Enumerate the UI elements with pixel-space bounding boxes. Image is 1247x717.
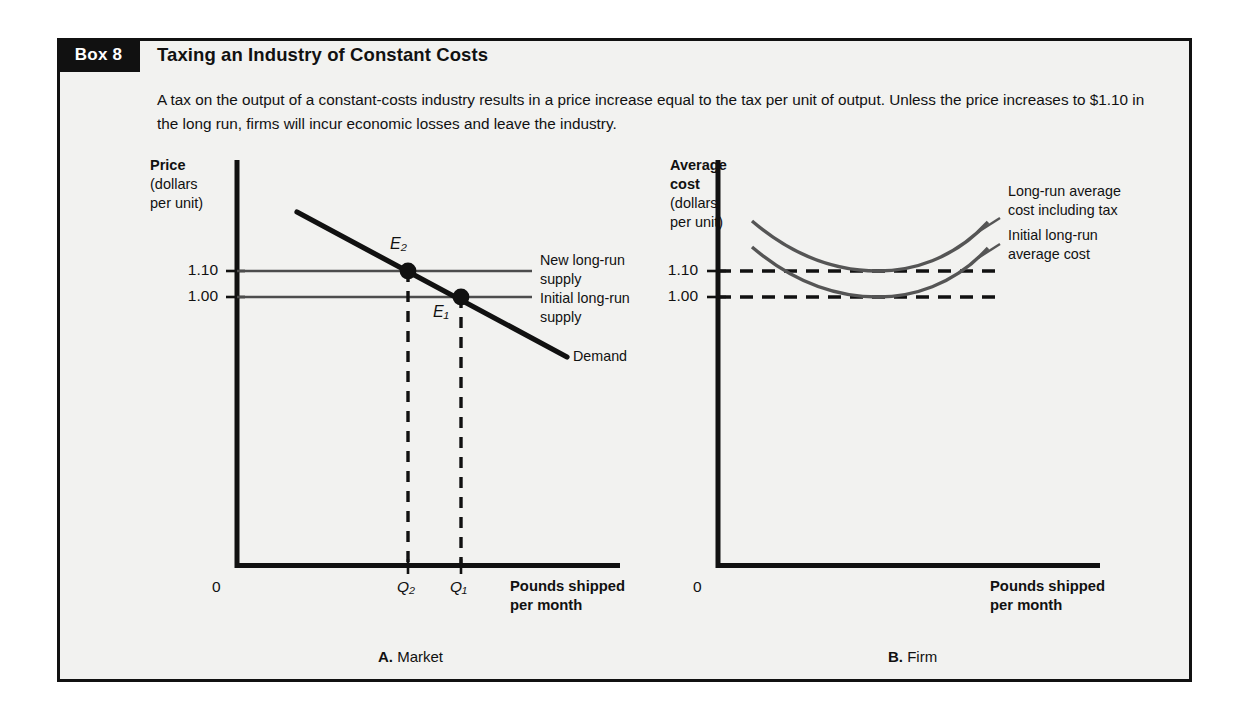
point-label-e2: E₂ [390,234,407,253]
y-axis-title-a-line1: Price [150,157,185,173]
box-title: Taxing an Industry of Constant Costs [157,44,488,66]
x-axis-title-a: Pounds shipped per month [510,577,625,615]
leader-curve-initial [978,244,1000,258]
y-axis-title-b-line4: per unit) [670,214,723,230]
point-label-e1: E₁ [433,302,449,321]
y-tick-label-110-a: 1.10 [154,261,218,279]
panel-caption-a: A. Market [378,648,443,665]
equilibrium-point-e1 [453,289,470,306]
figure-page: Box 8 Taxing an Industry of Constant Cos… [0,0,1247,717]
y-axis-title-b-line2: cost [670,176,700,192]
y-tick-label-110-b: 1.10 [634,261,698,279]
annotation-demand: Demand [573,347,627,366]
annotation-initial-long-run-average-cost: Initial long-run average cost [1008,226,1098,264]
curve-long-run-average-cost-including-tax [752,221,988,271]
origin-label-a: 0 [212,578,221,596]
panel-caption-b-text: Firm [903,648,937,665]
equilibrium-point-e2 [400,263,417,280]
y-tick-label-100-a: 1.00 [154,287,218,305]
panel-caption-b-prefix: B. [888,648,903,665]
chart-b-canvas [670,150,1190,650]
panel-caption-a-text: Market [393,648,443,665]
chart-panel-b-firm: Averagecost(dollarsper unit) 1.10 1.00 L… [670,150,1190,650]
y-tick-label-100-b: 1.00 [634,287,698,305]
panel-caption-b: B. Firm [888,648,937,665]
annotation-new-long-run-supply: New long-run supply [540,251,625,289]
y-axis-title-b-line3: (dollars [670,195,718,211]
chart-a-canvas [150,150,670,650]
demand-label-leader [543,344,567,357]
y-axis-title-a-line3: per unit) [150,195,203,211]
x-axis-title-b: Pounds shipped per month [990,577,1105,615]
y-axis-title-a-line2: (dollars [150,176,198,192]
annotation-long-run-average-cost-including-tax: Long-run average cost including tax [1008,182,1121,220]
leader-curve-with-tax [978,218,1000,232]
demand-curve [297,212,567,357]
chart-panel-a-market: Price(dollarsper unit) 1.10 1.00 E₂ E₁ N… [150,150,670,650]
panel-caption-a-prefix: A. [378,648,393,665]
box-intro-text: A tax on the output of a constant-costs … [157,88,1157,136]
x-tick-label-q2: Q₂ [397,578,415,596]
y-axis-title-b-line1: Average [670,157,727,173]
origin-label-b: 0 [693,578,702,596]
y-axis-title-a: Price(dollarsper unit) [150,156,203,213]
x-tick-label-q1: Q₁ [450,578,467,596]
y-axis-title-b: Averagecost(dollarsper unit) [670,156,727,232]
box-number-tag: Box 8 [57,38,140,72]
annotation-initial-long-run-supply: Initial long-run supply [540,289,630,327]
